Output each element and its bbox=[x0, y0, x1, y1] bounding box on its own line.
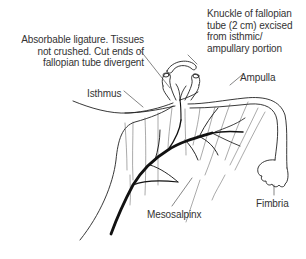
knuckle-line-1: Knuckle of fallopian bbox=[207, 8, 292, 20]
knuckle-line-4: ampullary portion bbox=[207, 43, 292, 55]
ligature-annotation: Absorbable ligature. Tissues not crushed… bbox=[4, 34, 144, 69]
knuckle-line-2: tube (2 cm) excised bbox=[207, 20, 292, 32]
isthmus-segment bbox=[73, 101, 175, 113]
ligature-line-1: Absorbable ligature. Tissues bbox=[4, 34, 144, 46]
ligature-line-2: not crushed. Cut ends of bbox=[4, 46, 144, 58]
isthmus-label: Isthmus bbox=[87, 88, 121, 100]
knuckle-annotation: Knuckle of fallopian tube (2 cm) excised… bbox=[207, 8, 292, 54]
fallopian-tube-diagram: Absorbable ligature. Tissues not crushed… bbox=[0, 0, 306, 259]
ligature-line-3: fallopian tube divergent bbox=[4, 57, 144, 69]
mesosalpinx-label: Mesosalpinx bbox=[147, 209, 201, 221]
mesosalpinx-fibers bbox=[125, 102, 265, 222]
fimbria bbox=[258, 160, 288, 187]
knuckle-line-3: from isthmic/ bbox=[207, 31, 292, 43]
ampulla-label: Ampulla bbox=[240, 72, 275, 84]
fimbria-label: Fimbria bbox=[256, 198, 289, 210]
ligature-leader bbox=[140, 50, 170, 88]
excised-knuckle bbox=[167, 61, 196, 73]
ampulla-segment bbox=[188, 98, 287, 168]
isthmus-leader bbox=[124, 91, 143, 107]
